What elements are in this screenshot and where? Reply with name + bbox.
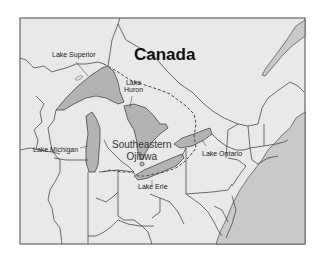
lake-label-huron-line2: Huron xyxy=(124,86,143,93)
region-label-southeastern-ojibwa: Southeastern Ojibwa xyxy=(112,139,172,162)
lake-label-michigan: Lake Michigan xyxy=(33,146,78,153)
region-label-line1: Southeastern xyxy=(112,139,172,151)
lake-label-huron-line1: Lake xyxy=(124,79,143,86)
lake-label-huron: Lake Huron xyxy=(124,79,143,93)
region-label-line2: Ojibwa xyxy=(112,151,172,163)
lake-st-clair xyxy=(140,162,144,166)
country-label-canada: Canada xyxy=(134,46,195,63)
lake-label-ontario: Lake Ontario xyxy=(202,150,242,157)
great-lakes-map xyxy=(0,0,320,254)
lake-label-erie: Lake Erie xyxy=(138,183,168,190)
lake-label-superior: Lake Superior xyxy=(52,51,96,58)
